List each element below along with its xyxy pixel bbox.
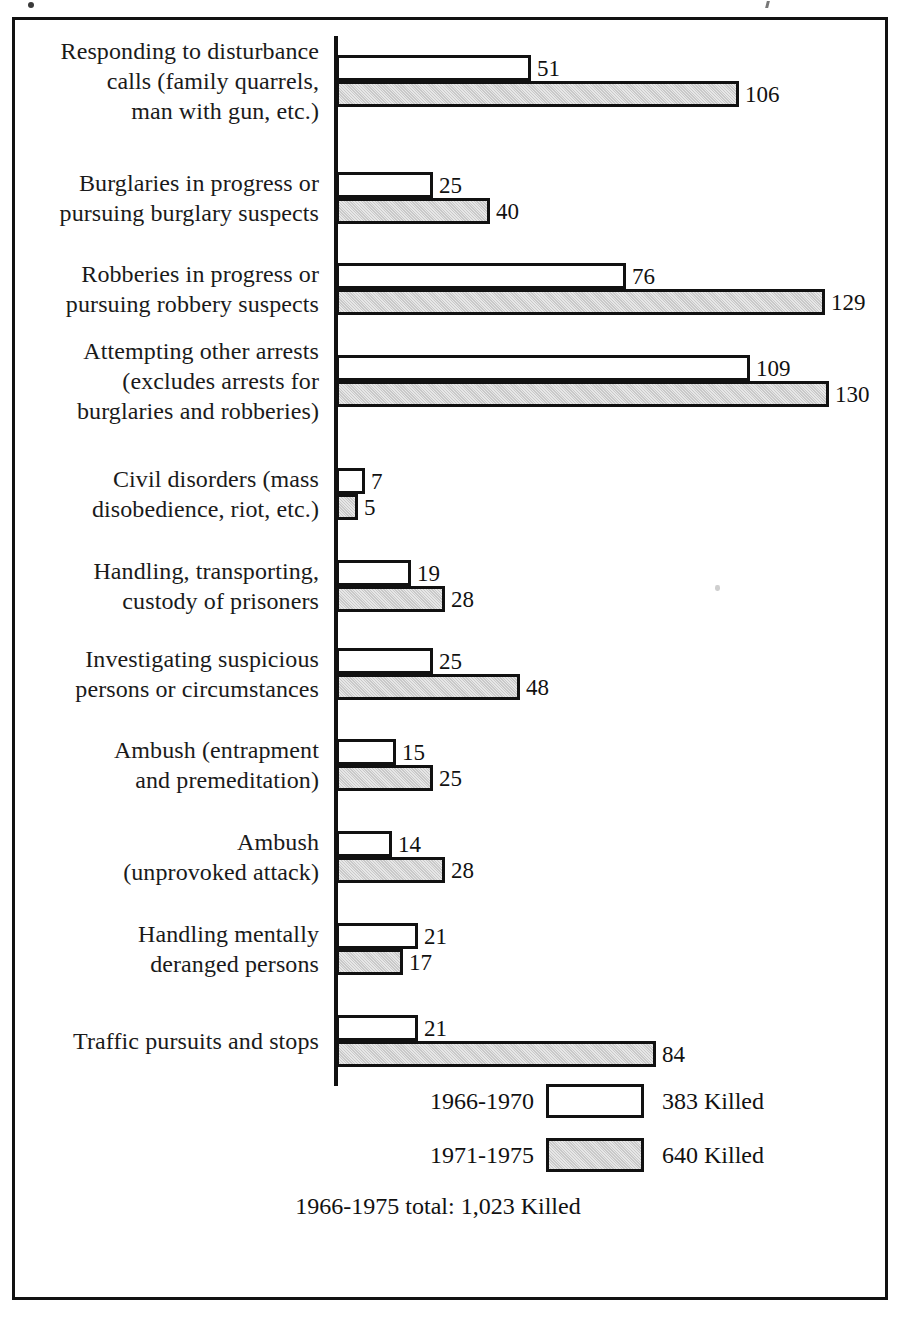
bar-1971-1975: 130 <box>336 381 829 407</box>
scan-speck-artifact <box>715 585 720 591</box>
legend-period-label: 1966-1970 <box>414 1089 534 1113</box>
category-label-line: (unprovoked attack) <box>19 857 319 887</box>
bar-1966-1970: 25 <box>336 648 433 674</box>
bar-value-label: 25 <box>439 174 462 197</box>
bar-pair: 51106 <box>336 55 739 107</box>
bar-value-label: 25 <box>439 650 462 673</box>
category-label-line: Ambush (entrapment <box>19 735 319 765</box>
bar-value-label: 84 <box>662 1043 685 1066</box>
bar-value-label: 48 <box>526 676 549 699</box>
category-label: Robberies in progress orpursuing robbery… <box>19 259 319 319</box>
bar-value-label: 129 <box>831 291 866 314</box>
category-label-line: Burglaries in progress or <box>19 168 319 198</box>
bar-value-label: 15 <box>402 741 425 764</box>
category-label: Responding to disturbancecalls (family q… <box>19 36 319 126</box>
legend-total-label: 1966-1975 total: 1,023 Killed <box>15 1192 891 1220</box>
bar-1966-1970: 7 <box>336 468 365 494</box>
category-label-line: Handling mentally <box>19 919 319 949</box>
bar-1971-1975: 28 <box>336 857 445 883</box>
page-edge-artifact <box>0 0 909 14</box>
category-label-line: pursuing robbery suspects <box>19 289 319 319</box>
category-label-line: (excludes arrests for <box>19 366 319 396</box>
legend-period-label: 1971-1975 <box>414 1143 534 1167</box>
legend-row: 1971-1975640 Killed <box>15 1138 891 1172</box>
bar-1966-1970: 76 <box>336 263 626 289</box>
bar-value-label: 5 <box>364 496 376 519</box>
category-label-line: man with gun, etc.) <box>19 96 319 126</box>
bar-value-label: 28 <box>451 588 474 611</box>
category-label: Civil disorders (massdisobedience, riot,… <box>19 464 319 524</box>
legend-count-label: 640 Killed <box>662 1143 764 1167</box>
bar-value-label: 109 <box>756 357 791 380</box>
category-label-line: Robberies in progress or <box>19 259 319 289</box>
bar-1971-1975: 5 <box>336 494 358 520</box>
bar-1971-1975: 40 <box>336 198 490 224</box>
bar-1971-1975: 106 <box>336 81 739 107</box>
category-label: Ambush (entrapmentand premeditation) <box>19 735 319 795</box>
bar-value-label: 21 <box>424 925 447 948</box>
bar-1966-1970: 15 <box>336 739 396 765</box>
bar-value-label: 106 <box>745 83 780 106</box>
bar-value-label: 51 <box>537 57 560 80</box>
bar-pair: 2548 <box>336 648 520 700</box>
bar-value-label: 25 <box>439 767 462 790</box>
category-label: Attempting other arrests(excludes arrest… <box>19 336 319 426</box>
bar-value-label: 21 <box>424 1017 447 1040</box>
category-label-line: Traffic pursuits and stops <box>19 1026 319 1056</box>
category-label-line: custody of prisoners <box>19 586 319 616</box>
category-label-line: disobedience, riot, etc.) <box>19 494 319 524</box>
legend-swatch-gray <box>546 1138 644 1172</box>
bar-1971-1975: 48 <box>336 674 520 700</box>
bar-1966-1970: 109 <box>336 355 750 381</box>
bar-pair: 2184 <box>336 1015 656 1067</box>
bar-pair: 75 <box>336 468 365 520</box>
bar-pair: 2540 <box>336 172 490 224</box>
bar-pair: 1428 <box>336 831 445 883</box>
bullet-artifact <box>28 2 34 8</box>
bar-pair: 109130 <box>336 355 829 407</box>
category-label-line: Ambush <box>19 827 319 857</box>
category-label-line: Investigating suspicious <box>19 644 319 674</box>
bar-value-label: 76 <box>632 265 655 288</box>
category-label-line: Responding to disturbance <box>19 36 319 66</box>
category-label: Traffic pursuits and stops <box>19 1026 319 1056</box>
bar-pair: 76129 <box>336 263 825 315</box>
bar-value-label: 40 <box>496 200 519 223</box>
legend-swatch-white <box>546 1084 644 1118</box>
bar-1971-1975: 129 <box>336 289 825 315</box>
category-label: Ambush(unprovoked attack) <box>19 827 319 887</box>
category-label-line: pursuing burglary suspects <box>19 198 319 228</box>
bar-1971-1975: 25 <box>336 765 433 791</box>
bar-pair: 1525 <box>336 739 433 791</box>
bar-1971-1975: 84 <box>336 1041 656 1067</box>
bar-1966-1970: 21 <box>336 923 418 949</box>
bar-pair: 2117 <box>336 923 418 975</box>
bar-value-label: 17 <box>409 951 432 974</box>
bar-1971-1975: 28 <box>336 586 445 612</box>
bar-1966-1970: 19 <box>336 560 411 586</box>
category-label: Handling, transporting,custody of prison… <box>19 556 319 616</box>
category-label-line: Handling, transporting, <box>19 556 319 586</box>
category-label: Handling mentallyderanged persons <box>19 919 319 979</box>
category-label-line: Attempting other arrests <box>19 336 319 366</box>
bar-value-label: 130 <box>835 383 870 406</box>
category-label-line: calls (family quarrels, <box>19 66 319 96</box>
category-label-line: deranged persons <box>19 949 319 979</box>
bar-value-label: 14 <box>398 833 421 856</box>
legend-row: 1966-1970383 Killed <box>15 1084 891 1118</box>
category-label-line: persons or circumstances <box>19 674 319 704</box>
bar-1966-1970: 51 <box>336 55 531 81</box>
bar-pair: 1928 <box>336 560 445 612</box>
category-label-line: burglaries and robberies) <box>19 396 319 426</box>
category-label: Burglaries in progress orpursuing burgla… <box>19 168 319 228</box>
comma-artifact <box>765 1 770 8</box>
chart-legend: 1966-1970383 Killed1971-1975640 Killed 1… <box>15 1084 891 1220</box>
bar-value-label: 28 <box>451 859 474 882</box>
bar-1966-1970: 14 <box>336 831 392 857</box>
bar-1966-1970: 21 <box>336 1015 418 1041</box>
bar-value-label: 19 <box>417 562 440 585</box>
category-label-line: Civil disorders (mass <box>19 464 319 494</box>
category-label-line: and premeditation) <box>19 765 319 795</box>
chart-frame: Responding to disturbancecalls (family q… <box>12 17 888 1300</box>
legend-count-label: 383 Killed <box>662 1089 764 1113</box>
